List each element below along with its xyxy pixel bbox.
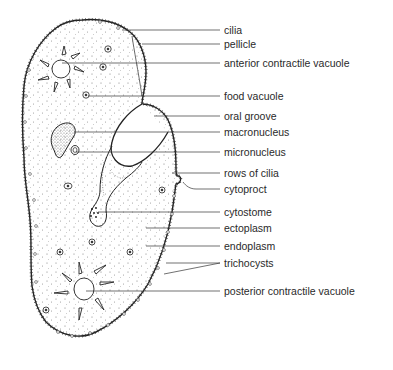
paramecium-diagram bbox=[0, 0, 393, 370]
label-trichocysts: trichocysts bbox=[224, 257, 274, 269]
label-micronucleus: micronucleus bbox=[224, 146, 286, 158]
label-oral-groove: oral groove bbox=[224, 110, 277, 122]
label-posterior-contractile-vacuole: posterior contractile vacuole bbox=[224, 285, 355, 297]
label-rows-of-cilia: rows of cilia bbox=[224, 167, 279, 179]
micronucleus bbox=[71, 146, 79, 155]
label-food-vacuole: food vacuole bbox=[224, 90, 284, 102]
label-cytoproct: cytoproct bbox=[224, 183, 267, 195]
label-pellicle: pellicle bbox=[224, 38, 256, 50]
label-cytostome: cytostome bbox=[224, 206, 272, 218]
label-cilia: cilia bbox=[224, 24, 242, 36]
label-anterior-contractile-vacuole: anterior contractile vacuole bbox=[224, 57, 349, 69]
label-macronucleus: macronucleus bbox=[224, 126, 289, 138]
label-ectoplasm: ectoplasm bbox=[224, 222, 272, 234]
label-endoplasm: endoplasm bbox=[224, 240, 275, 252]
